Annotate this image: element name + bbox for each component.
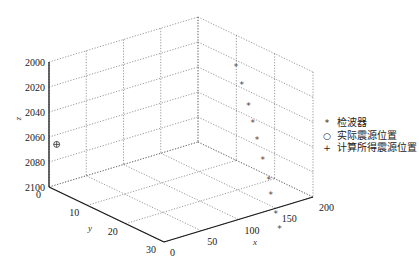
- detector-marker-icon: *: [269, 190, 274, 200]
- x-tick-label: 0: [170, 247, 175, 258]
- gridline: [126, 179, 275, 224]
- y-tick-label: 10: [69, 207, 79, 218]
- detector-marker-icon: *: [277, 224, 282, 234]
- legend-item-actual-source: ○ 实际震源位置: [322, 130, 417, 143]
- detector-marker-icon: *: [260, 155, 265, 165]
- x-tick-label: 150: [282, 213, 297, 224]
- detector-marker-icon: *: [267, 175, 272, 185]
- detector-marker-icon: *: [255, 135, 260, 145]
- z-tick-label: 2000: [25, 57, 45, 68]
- gridline: [198, 42, 313, 97]
- tick-labels: 2000202020402060208021000102030050100150…: [25, 57, 334, 259]
- x-tick-label: 200: [319, 202, 334, 213]
- x-axis-label: x: [252, 237, 257, 247]
- z-tick-label: 2060: [25, 132, 45, 143]
- gridline: [198, 142, 313, 197]
- plus-marker-icon: +: [322, 142, 332, 155]
- data-points: **********: [54, 62, 283, 234]
- gridline: [124, 165, 239, 220]
- detector-marker-icon: *: [246, 101, 251, 111]
- y-axis-label: y: [87, 223, 92, 233]
- gridline: [198, 142, 313, 197]
- detector-marker-icon: *: [234, 62, 239, 72]
- legend-item-detector: * 检波器: [322, 117, 417, 130]
- z-tick-label: 2080: [25, 157, 45, 168]
- detector-marker-icon: *: [239, 80, 244, 90]
- legend-label: 计算所得震源位置: [337, 142, 417, 155]
- asterisk-marker-icon: *: [322, 117, 332, 130]
- z-tick-label: 2040: [25, 107, 45, 118]
- detector-marker-icon: *: [251, 118, 256, 128]
- gridline: [86, 176, 201, 231]
- detector-marker-icon: *: [274, 209, 279, 219]
- legend-label: 实际震源位置: [337, 130, 397, 143]
- y-tick-label: 30: [146, 244, 156, 255]
- gridline: [198, 67, 313, 122]
- legend-label: 检波器: [337, 117, 367, 130]
- gridline: [161, 153, 276, 208]
- z-tick-label: 2020: [25, 82, 45, 93]
- x-tick-label: 50: [207, 236, 217, 247]
- legend-item-computed-source: + 计算所得震源位置: [322, 142, 417, 155]
- z-axis-label: z: [15, 116, 25, 121]
- y-tick-label: 20: [108, 226, 118, 237]
- gridline: [49, 187, 164, 242]
- x-tick-label: 100: [245, 225, 260, 236]
- circle-marker-icon: ○: [322, 130, 332, 143]
- gridline: [198, 17, 313, 72]
- legend: * 检波器 ○ 实际震源位置 + 计算所得震源位置: [322, 117, 417, 155]
- y-tick-label: 0: [36, 189, 41, 200]
- z-tick-label: 2100: [25, 182, 45, 193]
